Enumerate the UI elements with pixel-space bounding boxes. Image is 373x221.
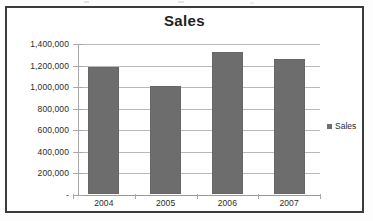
- category-axis-label-2007: 2007: [258, 198, 320, 208]
- category-axis-label-2004: 2004: [73, 198, 135, 208]
- category-axis-labels: 2004200520062007: [73, 198, 320, 214]
- category-axis-label-2005: 2005: [135, 198, 197, 208]
- value-axis-tick-label: 1,000,000: [11, 82, 69, 92]
- bar-2004: [88, 67, 119, 194]
- bar-series-sales: [73, 44, 320, 195]
- category-axis-tick: [320, 194, 321, 199]
- plot-area: [73, 44, 320, 195]
- value-axis-tick-label: 1,400,000: [11, 39, 69, 49]
- value-axis-tick-label: 400,000: [11, 147, 69, 157]
- scan-speck: [178, 1, 184, 3]
- value-axis-tick-label: 200,000: [11, 168, 69, 178]
- bar-2006: [212, 52, 243, 194]
- bar-2007: [274, 59, 305, 194]
- chart-legend: Sales: [327, 121, 356, 131]
- value-axis-tick-label: 1,200,000: [11, 61, 69, 71]
- legend-square-icon: [327, 124, 332, 129]
- category-axis-label-2006: 2006: [197, 198, 259, 208]
- value-axis-tick-label: 600,000: [11, 125, 69, 135]
- value-axis-labels: -200,000400,000600,000800,0001,000,0001,…: [7, 44, 69, 195]
- bar-2005: [150, 86, 181, 194]
- scan-speck: [84, 1, 89, 3]
- chart-title: Sales: [7, 12, 362, 29]
- scanned-page-background: Sales -200,000400,000600,000800,0001,000…: [0, 0, 373, 221]
- value-axis-tick-label: 800,000: [11, 104, 69, 114]
- chart-frame: Sales -200,000400,000600,000800,0001,000…: [5, 6, 364, 213]
- scan-speck: [250, 2, 254, 4]
- legend-item-label: Sales: [335, 121, 356, 131]
- value-axis-tick: [74, 195, 83, 196]
- value-axis-tick-label: -: [11, 190, 69, 200]
